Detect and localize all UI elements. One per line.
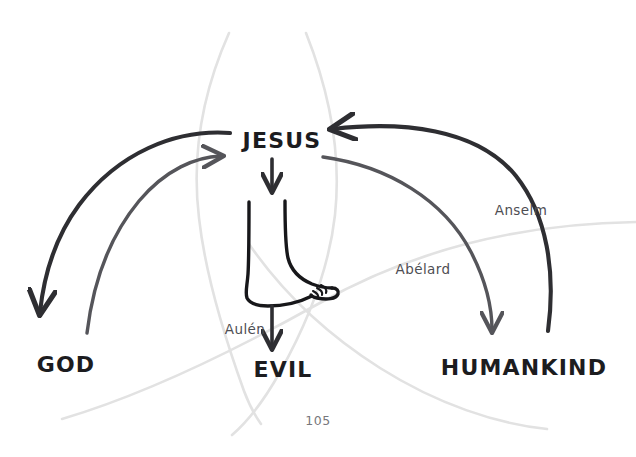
page-canvas: JESUS GOD EVIL HUMANKIND Aulén Abélard A…	[0, 0, 636, 457]
atonement-diagram: JESUS GOD EVIL HUMANKIND Aulén Abélard A…	[0, 0, 636, 457]
foot-outline-front	[285, 201, 332, 288]
arrow-jesus-to-humankind-path	[323, 157, 492, 330]
arrow-humankind-to-jesus	[333, 126, 551, 331]
node-label-evil: EVIL	[253, 357, 312, 382]
theory-label-aulen: Aulén	[225, 321, 265, 337]
arrow-god-to-jesus-path	[87, 156, 221, 333]
arrow-god-to-jesus	[87, 156, 221, 333]
node-label-humankind: HUMANKIND	[441, 355, 607, 380]
theory-label-abelard: Abélard	[396, 261, 451, 277]
node-label-god: GOD	[37, 352, 96, 377]
foot-illustration	[246, 201, 338, 306]
node-label-jesus: JESUS	[241, 128, 322, 153]
page-number: 105	[305, 413, 330, 428]
arrow-humankind-to-jesus-path	[333, 126, 551, 331]
vesica-left-curve	[197, 33, 261, 424]
arrow-jesus-to-humankind	[323, 157, 492, 330]
theory-label-anselm: Anselm	[495, 202, 547, 218]
